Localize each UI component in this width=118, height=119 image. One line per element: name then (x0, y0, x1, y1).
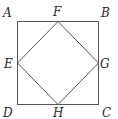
label-a: A (2, 6, 12, 20)
label-b: B (100, 6, 110, 20)
inner-square-efgh (18, 22, 99, 105)
square-diagram: A B C D E F G H (0, 0, 118, 119)
outer-square-abcd (18, 22, 99, 105)
label-g: G (100, 57, 110, 71)
label-c: C (102, 106, 111, 119)
label-h: H (52, 106, 64, 119)
label-d: D (2, 106, 13, 119)
label-f: F (52, 5, 62, 19)
label-e: E (3, 57, 13, 71)
